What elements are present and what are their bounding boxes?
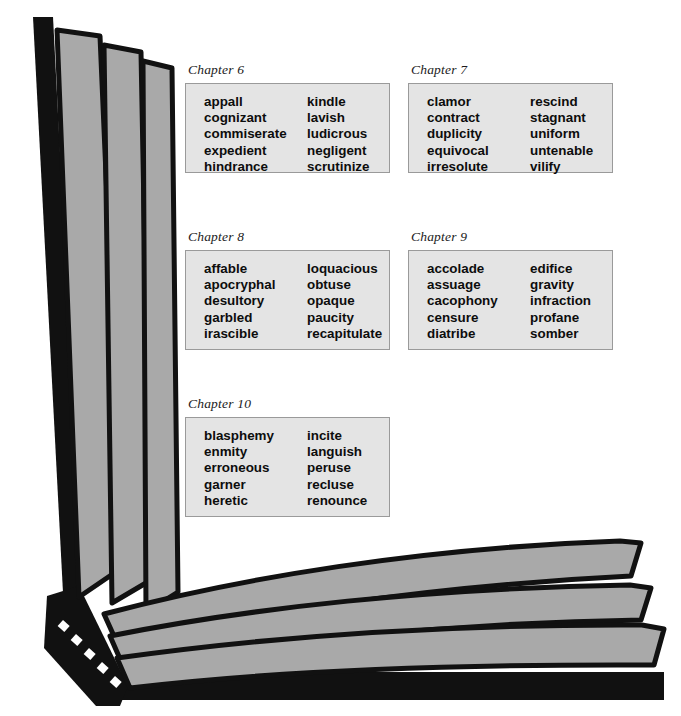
word: loquacious (307, 261, 389, 277)
word: equivocal (427, 143, 530, 159)
word: garner (204, 477, 307, 493)
word: negligent (307, 143, 389, 159)
word: hindrance (204, 159, 307, 175)
word-column-left: blasphemy enmity erroneous garner hereti… (204, 428, 307, 509)
word: infraction (530, 293, 612, 309)
word: erroneous (204, 460, 307, 476)
word: kindle (307, 94, 389, 110)
word: recluse (307, 477, 389, 493)
book-page-upper-3 (143, 61, 178, 612)
word: assuage (427, 277, 530, 293)
chapter-group-9: Chapter 9 accolade assuage cacophony cen… (408, 229, 613, 350)
chapter-label: Chapter 6 (188, 62, 390, 78)
word: somber (530, 326, 612, 342)
word: blasphemy (204, 428, 307, 444)
word: lavish (307, 110, 389, 126)
chapter-group-7: Chapter 7 clamor contract duplicity equi… (408, 62, 613, 173)
page-root: Chapter 6 appall cognizant commiserate e… (0, 0, 681, 716)
word: renounce (307, 493, 389, 509)
word-box: blasphemy enmity erroneous garner hereti… (185, 417, 390, 517)
word: gravity (530, 277, 612, 293)
word: ludicrous (307, 126, 389, 142)
word-box: clamor contract duplicity equivocal irre… (408, 83, 613, 173)
word-column-right: incite languish peruse recluse renounce (307, 428, 389, 509)
word: cacophony (427, 293, 530, 309)
word-box: appall cognizant commiserate expedient h… (185, 83, 390, 173)
word: uniform (530, 126, 612, 142)
word-column-right: kindle lavish ludicrous negligent scruti… (307, 94, 389, 175)
chapter-group-10: Chapter 10 blasphemy enmity erroneous ga… (185, 396, 390, 517)
word: opaque (307, 293, 389, 309)
word: paucity (307, 310, 389, 326)
word: apocryphal (204, 277, 307, 293)
word: affable (204, 261, 307, 277)
word: untenable (530, 143, 612, 159)
word: accolade (427, 261, 530, 277)
word: expedient (204, 143, 307, 159)
word: vilify (530, 159, 612, 175)
chapter-group-6: Chapter 6 appall cognizant commiserate e… (185, 62, 390, 173)
word-column-right: edifice gravity infraction profane sombe… (530, 261, 612, 342)
word-column-left: clamor contract duplicity equivocal irre… (427, 94, 530, 175)
word: appall (204, 94, 307, 110)
word-column-right: loquacious obtuse opaque paucity recapit… (307, 261, 389, 342)
word-column-left: accolade assuage cacophony censure diatr… (427, 261, 530, 342)
word-box: affable apocryphal desultory garbled ira… (185, 250, 390, 350)
chapter-group-8: Chapter 8 affable apocryphal desultory g… (185, 229, 390, 350)
word: contract (427, 110, 530, 126)
word: profane (530, 310, 612, 326)
word: garbled (204, 310, 307, 326)
word: desultory (204, 293, 307, 309)
word: edifice (530, 261, 612, 277)
word: enmity (204, 444, 307, 460)
word: commiserate (204, 126, 307, 142)
word: clamor (427, 94, 530, 110)
word: obtuse (307, 277, 389, 293)
word: cognizant (204, 110, 307, 126)
word: irascible (204, 326, 307, 342)
chapter-label: Chapter 7 (411, 62, 613, 78)
word-column-right: rescind stagnant uniform untenable vilif… (530, 94, 612, 175)
word: peruse (307, 460, 389, 476)
word-column-left: affable apocryphal desultory garbled ira… (204, 261, 307, 342)
word: rescind (530, 94, 612, 110)
word: languish (307, 444, 389, 460)
chapter-label: Chapter 10 (188, 396, 390, 412)
word: heretic (204, 493, 307, 509)
word: scrutinize (307, 159, 389, 175)
word: censure (427, 310, 530, 326)
word: recapitulate (307, 326, 389, 342)
word: diatribe (427, 326, 530, 342)
word-box: accolade assuage cacophony censure diatr… (408, 250, 613, 350)
chapter-label: Chapter 8 (188, 229, 390, 245)
word: irresolute (427, 159, 530, 175)
word: duplicity (427, 126, 530, 142)
word: incite (307, 428, 389, 444)
word: stagnant (530, 110, 612, 126)
word-column-left: appall cognizant commiserate expedient h… (204, 94, 307, 175)
chapter-label: Chapter 9 (411, 229, 613, 245)
